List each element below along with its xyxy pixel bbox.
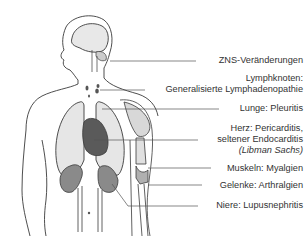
torso-outline — [22, 130, 47, 236]
label-lunge: Lunge: Pleuritis — [240, 103, 303, 114]
label-herz-1: Herz: Pericarditis, — [231, 123, 304, 134]
label-zns: ZNS-Veränderungen — [219, 55, 303, 66]
lymph-nodes — [86, 84, 100, 98]
label-niere: Niere: Lupusnephritis — [216, 200, 303, 211]
label-lymph-title: Lymphknoten: — [246, 73, 303, 84]
brain — [71, 24, 108, 53]
cerebellum — [96, 51, 106, 60]
arm — [120, 100, 153, 236]
ureters — [78, 186, 102, 232]
label-herz-2: seltener Endocarditis — [217, 134, 303, 145]
left-lung — [56, 102, 84, 175]
label-lymph-detail: Generalisierte Lymphadenopathie — [165, 84, 303, 95]
label-herz-3: (Libman Sachs) — [239, 145, 303, 156]
navel — [88, 212, 90, 214]
label-muskeln: Muskeln: Myalgien — [227, 163, 303, 174]
label-gelenke: Gelenke: Arthralgien — [220, 180, 303, 191]
